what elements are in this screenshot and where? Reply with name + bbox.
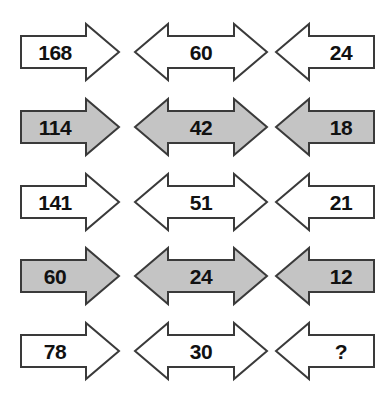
arrow-cell-r3c2: 51 (134, 173, 268, 231)
arrow-cell-r2c2: 42 (134, 98, 268, 156)
arrow-left-shape (276, 323, 374, 379)
arrow-cell-r4c2: 24 (134, 247, 268, 305)
arrow-right-shape (21, 248, 119, 304)
arrow-value: 60 (44, 265, 66, 288)
arrow-value: 24 (190, 265, 213, 288)
arrow-left-shape (276, 99, 374, 155)
arrow-value: 12 (330, 265, 352, 288)
arrow-value-unknown: ? (335, 340, 347, 363)
arrow-cell-r1c3: 24 (275, 23, 375, 81)
arrow-cell-r5c2: 30 (134, 322, 268, 380)
arrow-value: 30 (190, 340, 212, 363)
arrow-value: 60 (190, 41, 212, 64)
arrow-cell-r4c3: 12 (275, 247, 375, 305)
arrow-left-shape (276, 174, 374, 230)
arrow-cell-r1c1: 168 (20, 23, 120, 81)
arrow-cell-r1c2: 60 (134, 23, 268, 81)
arrow-value: 51 (190, 191, 213, 214)
arrow-cell-r5c3: ? (275, 322, 375, 380)
arrow-cell-r3c3: 21 (275, 173, 375, 231)
arrow-cell-r3c1: 141 (20, 173, 120, 231)
arrow-left-shape (276, 248, 374, 304)
arrow-value: 78 (44, 340, 67, 363)
arrow-value: 24 (330, 41, 353, 64)
arrow-cell-r5c1: 78 (20, 322, 120, 380)
arrow-puzzle-grid: 168 60 24 114 42 18 (0, 0, 391, 399)
arrow-right-shape (21, 323, 119, 379)
arrow-value: 168 (38, 41, 72, 64)
arrow-cell-r2c1: 114 (20, 98, 120, 156)
arrow-value: 114 (39, 116, 72, 139)
arrow-value: 21 (330, 191, 353, 214)
arrow-left-shape (276, 24, 374, 80)
arrow-cell-r2c3: 18 (275, 98, 375, 156)
arrow-value: 141 (38, 191, 72, 214)
arrow-value: 42 (190, 116, 212, 139)
arrow-cell-r4c1: 60 (20, 247, 120, 305)
arrow-value: 18 (330, 116, 353, 139)
